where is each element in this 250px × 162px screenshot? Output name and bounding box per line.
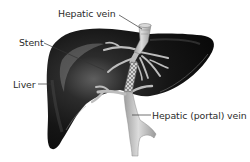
label-portal-vein: Hepatic (portal) vein: [152, 111, 247, 120]
portal-vein: [92, 86, 156, 156]
label-stent: Stent: [19, 38, 44, 47]
leader-hepatic-vein: [119, 15, 142, 29]
label-liver: Liver: [13, 80, 36, 89]
liver-diagram: Hepatic vein Stent Liver Hepatic (portal…: [0, 0, 250, 162]
liver-illustration: [0, 0, 250, 162]
label-hepatic-vein: Hepatic vein: [58, 9, 116, 18]
